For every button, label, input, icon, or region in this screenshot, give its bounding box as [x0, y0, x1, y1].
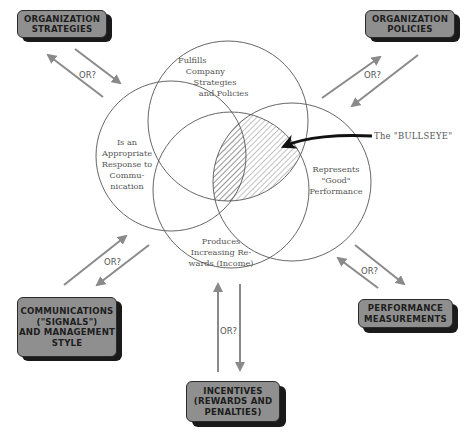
arrow-from-org-policies	[352, 55, 418, 106]
circle-label-performance: Represents "Good" Performance	[300, 164, 372, 197]
arrow-to-performance	[355, 245, 404, 284]
or-label-communications: OR?	[104, 257, 121, 267]
circle-label-rewards: Produces Increasing Re- wards (Income)	[176, 236, 266, 269]
circle-label-strategies: Fulfills Company Strategies and Policies	[178, 55, 248, 99]
incentives-box: INCENTIVES (REWARDS AND PENALTIES)	[186, 381, 280, 422]
performance-box: PERFORMANCE MEASUREMENTS	[358, 299, 453, 328]
or-label-strategies: OR?	[79, 70, 96, 80]
circle-label-communication: Is an Appropriate Response to Commu- nic…	[96, 137, 158, 192]
or-label-incentives: OR?	[220, 326, 237, 336]
or-label-performance: OR?	[361, 266, 378, 276]
communications-box: COMMUNICATIONS ("SIGNALS") AND MANAGEMEN…	[17, 297, 117, 357]
org-strategies-box: ORGANIZATION STRATEGIES	[17, 10, 107, 38]
bullseye-label: The "BULLSEYE"	[374, 131, 452, 142]
org-policies-box: ORGANIZATION POLICIES	[365, 10, 455, 38]
or-label-policies: OR?	[364, 70, 381, 80]
